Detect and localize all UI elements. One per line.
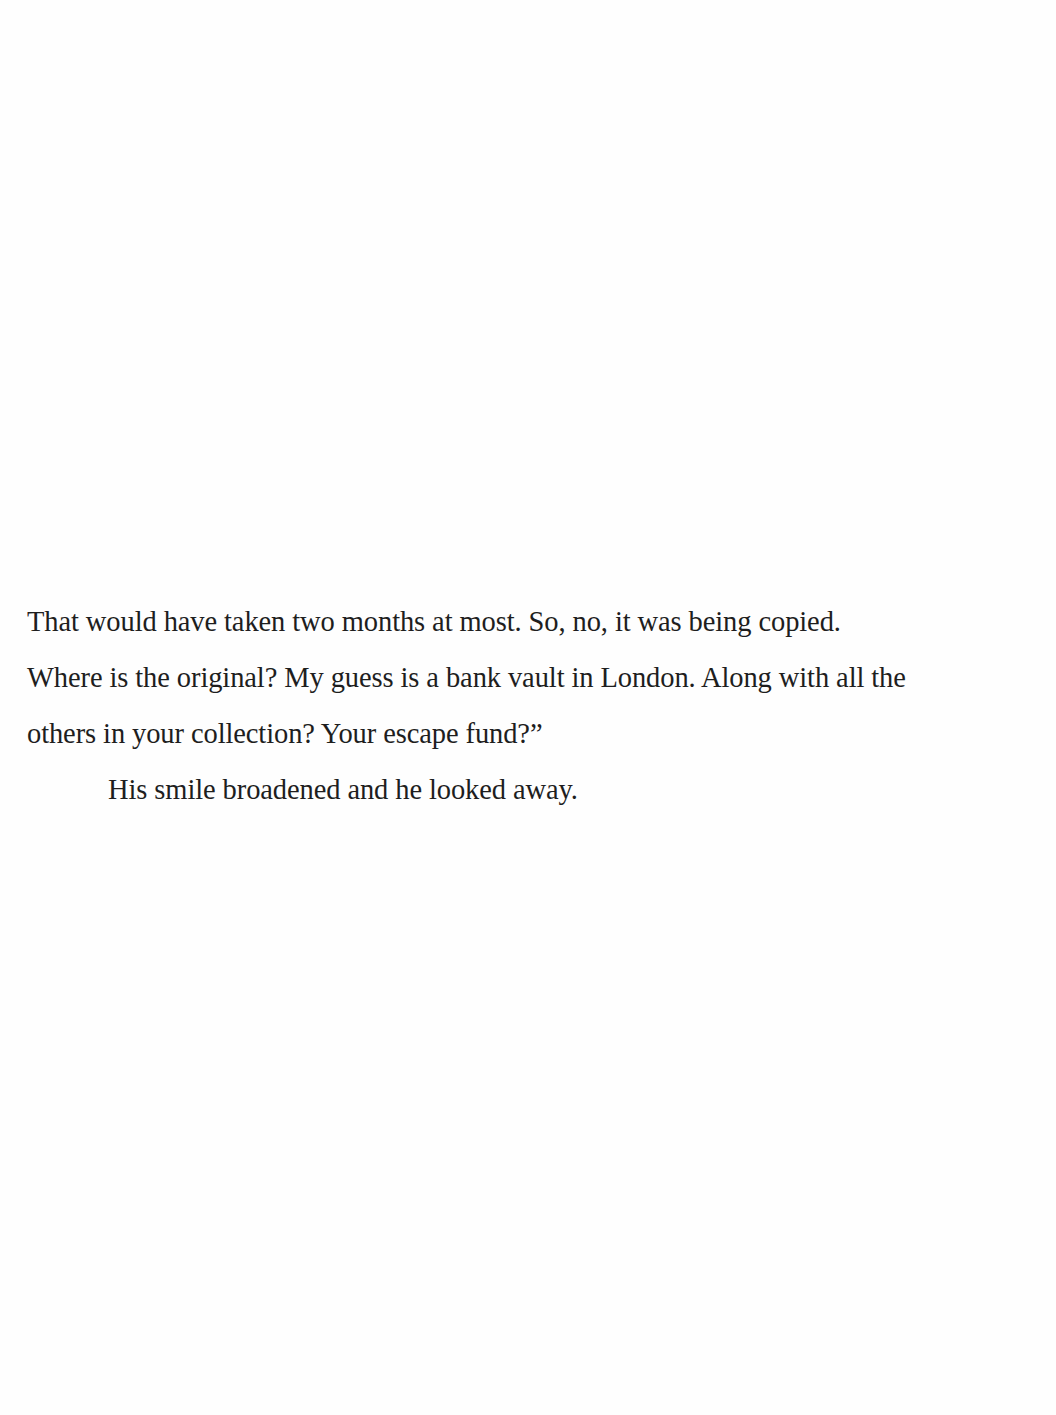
text-line-1: That would have taken two months at most… [27, 594, 1037, 650]
paragraph-indented-line: His smile broadened and he looked away. [27, 762, 1037, 818]
body-text: That would have taken two months at most… [27, 594, 1037, 818]
text-line-3: others in your collection? Your escape f… [27, 706, 1037, 762]
document-page: That would have taken two months at most… [0, 0, 1056, 1415]
text-line-2: Where is the original? My guess is a ban… [27, 650, 1037, 706]
